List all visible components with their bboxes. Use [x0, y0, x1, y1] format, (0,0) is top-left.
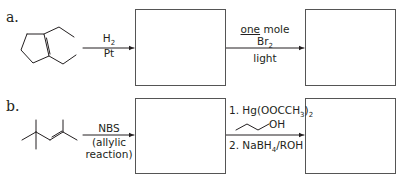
reagent-b2-line2: 2. NaBH4/ROH	[229, 139, 303, 151]
propanol-structure	[236, 124, 269, 130]
answer-box-a2[interactable]	[305, 9, 396, 86]
answer-box-b2[interactable]	[305, 98, 396, 174]
answer-box-b1[interactable]	[135, 98, 226, 174]
reagent-b1: NBS (allylic reaction)	[84, 122, 134, 160]
reagent-a2: one mole Br2 light	[235, 23, 295, 64]
reagent-b2-line1: 1. Hg(OOCCH3)2	[229, 104, 313, 116]
diethylcyclopentene-structure	[21, 27, 76, 64]
propanol-oh-label: OH	[269, 118, 285, 130]
answer-box-a1[interactable]	[135, 9, 226, 86]
trimethylhexene-structure	[22, 120, 77, 149]
reagent-a1: H2 Pt	[95, 32, 123, 59]
